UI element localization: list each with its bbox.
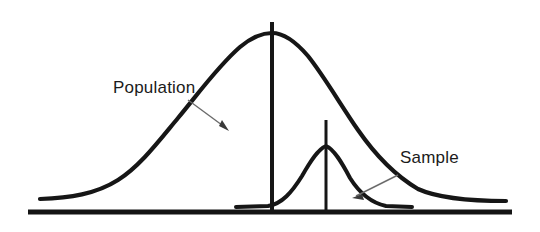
- distribution-chart-canvas: Population Sample: [0, 0, 540, 232]
- population-leader-arrow: [188, 100, 229, 131]
- sample-curve: [236, 146, 412, 207]
- population-label: Population: [113, 78, 195, 97]
- sample-label: Sample: [400, 148, 459, 167]
- distribution-figure: Population Sample: [0, 0, 540, 232]
